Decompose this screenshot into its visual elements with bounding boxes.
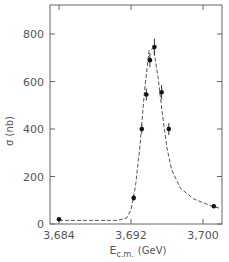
x-axis-label-unit: (GeV) <box>138 245 167 256</box>
x-axis-ticks: 3,6843,6923,700 <box>43 5 219 242</box>
data-point <box>144 92 149 97</box>
x-axis-label-main: E <box>110 244 117 257</box>
y-axis-label: σ (nb) <box>4 116 15 146</box>
resonance-chart: 0200400600800 3,6843,6923,700 σ (nb) Ec.… <box>0 0 229 262</box>
x-axis-label-sub: c.m. <box>117 250 134 259</box>
data-point <box>57 217 62 222</box>
plot-frame <box>50 5 222 224</box>
x-axis-label: Ec.m.(GeV) <box>110 244 167 259</box>
data-point <box>140 127 145 132</box>
y-tick-label: 600 <box>23 76 44 89</box>
y-tick-label: 400 <box>23 123 44 136</box>
x-tick-label: 3,700 <box>187 229 219 242</box>
data-point <box>152 45 157 50</box>
y-tick-label: 200 <box>23 171 44 184</box>
y-axis-ticks: 0200400600800 <box>23 28 222 231</box>
data-point <box>167 127 172 132</box>
x-tick-label: 3,684 <box>43 229 75 242</box>
x-tick-label: 3,692 <box>115 229 147 242</box>
data-point <box>131 196 136 201</box>
fit-curve <box>59 48 221 220</box>
data-point <box>212 204 217 209</box>
y-tick-label: 800 <box>23 28 44 41</box>
data-point <box>159 90 164 95</box>
data-point <box>148 58 153 63</box>
data-points <box>57 39 216 222</box>
